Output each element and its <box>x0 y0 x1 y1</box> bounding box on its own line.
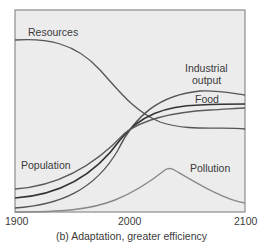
x-tick-2100: 2100 <box>234 215 258 227</box>
x-tick-1900: 1900 <box>5 215 29 227</box>
label-population: Population <box>21 159 71 171</box>
chart-caption: (b) Adaptation, greater efficiency <box>56 230 208 242</box>
label-food: Food <box>195 93 219 105</box>
chart: Resources Industrial output Food Populat… <box>0 0 265 250</box>
plot-area <box>15 10 245 212</box>
x-tick-2000: 2000 <box>118 215 142 227</box>
label-resources: Resources <box>28 26 78 38</box>
label-pollution: Pollution <box>190 162 230 174</box>
label-industrial: Industrial <box>185 62 228 74</box>
label-output: output <box>192 74 221 86</box>
